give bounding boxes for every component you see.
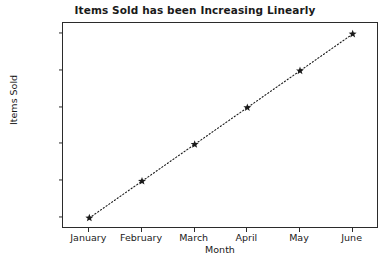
data-point-marker [296,67,304,75]
data-series-line [63,23,379,229]
plot-area [62,22,378,228]
x-tick-mark [299,228,300,232]
x-tick-mark [88,228,89,232]
data-point-marker [85,214,93,222]
x-tick-mark [352,228,353,232]
x-axis-label: Month [62,244,378,255]
x-tick-mark [141,228,142,232]
data-point-marker [191,140,199,148]
y-axis-label: Items Sold [8,75,19,125]
data-point-marker [243,103,251,111]
x-tick-mark [194,228,195,232]
x-tick-mark [246,228,247,232]
chart-title: Items Sold has been Increasing Linearly [0,4,390,16]
data-point-marker [138,177,146,185]
x-tick-label: June [312,232,390,243]
series-polyline [89,34,352,218]
chart-figure: Items Sold has been Increasing Linearly … [0,0,390,265]
